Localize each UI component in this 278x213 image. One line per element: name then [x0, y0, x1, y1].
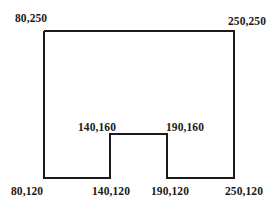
- label-bottom-right: 250,120: [225, 186, 263, 198]
- label-notch-left-bottom: 140,120: [92, 186, 130, 198]
- label-bottom-left: 80,120: [11, 186, 43, 198]
- label-notch-left-top: 140,160: [78, 122, 116, 134]
- label-notch-right-bottom: 190,120: [151, 186, 189, 198]
- label-top-left: 80,250: [15, 13, 47, 25]
- notched-rectangle-outline: [44, 31, 234, 178]
- label-notch-right-top: 190,160: [166, 122, 204, 134]
- polygon-diagram: [0, 0, 278, 213]
- label-top-right: 250,250: [228, 16, 266, 28]
